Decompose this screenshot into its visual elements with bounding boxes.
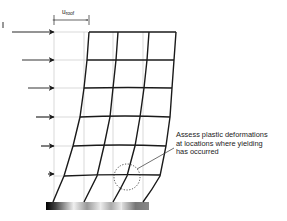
roof-displacement-dimension (54, 15, 89, 25)
annotation-leader-line (137, 148, 174, 169)
annotation-line-3: has occurred (176, 148, 268, 157)
uroof-subscript: roof (66, 10, 75, 16)
ground-base (46, 202, 149, 210)
pushover-frame-diagram (0, 0, 287, 221)
lateral-load-arrows (12, 32, 54, 174)
plastic-deformation-annotation: Assess plastic deformations at locations… (176, 131, 268, 157)
roof-displacement-label: uroof (62, 8, 74, 16)
title-fragment: ... (124, 0, 129, 1)
